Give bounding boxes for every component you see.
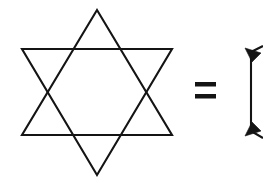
equals-sign xyxy=(195,82,216,99)
figure-canvas: A six-pointed star (hexagram) formed by … xyxy=(0,0,263,181)
hexagram-triangle-up xyxy=(22,10,172,135)
equals-sign-bar-bottom xyxy=(195,94,216,99)
hexagram-triangle-down xyxy=(22,49,172,175)
equals-sign-bar-top xyxy=(195,82,216,87)
diagram-svg xyxy=(0,0,263,181)
hexagram xyxy=(22,10,172,175)
right-clipped-figure xyxy=(245,46,263,138)
arrowhead-down-left-icon xyxy=(245,122,261,136)
